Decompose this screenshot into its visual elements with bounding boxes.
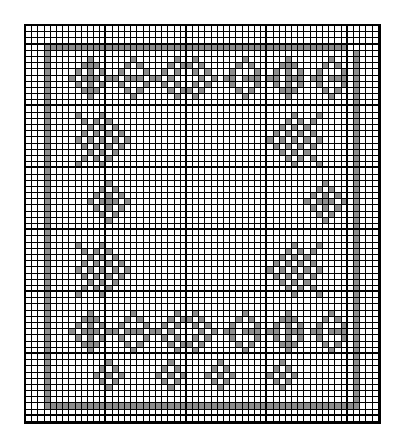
grid-cell xyxy=(373,416,379,422)
pattern-grid xyxy=(24,24,381,424)
knitting-chart xyxy=(24,24,381,424)
